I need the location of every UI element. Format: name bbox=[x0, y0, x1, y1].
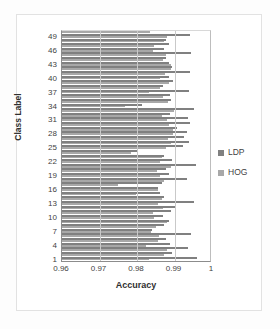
bar-group bbox=[62, 247, 210, 252]
bar-group bbox=[62, 196, 210, 201]
bar-hog bbox=[62, 221, 167, 223]
bar-hog bbox=[62, 119, 167, 121]
bar-ldp bbox=[62, 233, 191, 235]
y-tick-label: 31 bbox=[35, 116, 57, 124]
bar-hog bbox=[62, 50, 153, 52]
bar-rows bbox=[62, 31, 210, 261]
bar-hog bbox=[62, 217, 154, 219]
bar-ldp bbox=[62, 117, 188, 119]
bar-group bbox=[62, 113, 210, 118]
bar-hog bbox=[62, 235, 159, 237]
bar-ldp bbox=[62, 131, 187, 133]
bar-group bbox=[62, 66, 210, 71]
y-tick-label: 1 bbox=[35, 256, 57, 264]
bar-ldp bbox=[62, 104, 142, 106]
x-tick-label: 0.97 bbox=[91, 264, 107, 273]
bar-hog bbox=[62, 207, 163, 209]
bar-group bbox=[62, 43, 210, 48]
bar-group bbox=[62, 122, 210, 127]
y-axis-title: Class Label bbox=[13, 93, 23, 140]
bar-ldp bbox=[62, 238, 166, 240]
bar-group bbox=[62, 215, 210, 220]
x-axis-tick-labels: 0.960.970.980.991 bbox=[61, 264, 211, 278]
bar-group bbox=[62, 224, 210, 229]
bar-hog bbox=[62, 240, 158, 242]
bar-group bbox=[62, 117, 210, 122]
bar-ldp bbox=[62, 159, 172, 161]
bar-hog bbox=[62, 203, 158, 205]
bar-ldp bbox=[62, 206, 176, 208]
bar-ldp bbox=[62, 220, 169, 222]
bar-hog bbox=[62, 115, 162, 117]
bar-ldp bbox=[62, 145, 183, 147]
bar-ldp bbox=[62, 192, 160, 194]
x-tick-label: 0.99 bbox=[166, 264, 182, 273]
legend-label: LDP bbox=[228, 148, 245, 157]
bar-hog bbox=[62, 40, 164, 42]
bar-group bbox=[62, 131, 210, 136]
bar-group bbox=[62, 252, 210, 257]
bar-hog bbox=[62, 129, 173, 131]
bar-ldp bbox=[62, 62, 169, 64]
bar-hog bbox=[62, 68, 171, 70]
bar-ldp bbox=[62, 187, 158, 189]
y-tick-label: 34 bbox=[35, 103, 57, 111]
bar-group bbox=[62, 154, 210, 159]
bar-ldp bbox=[62, 71, 190, 73]
bar-hog bbox=[62, 87, 160, 89]
bar-hog bbox=[62, 249, 167, 251]
bar-group bbox=[62, 201, 210, 206]
bar-hog bbox=[62, 91, 149, 93]
bar-hog bbox=[62, 156, 162, 158]
bar-group bbox=[62, 85, 210, 90]
bar-group bbox=[62, 178, 210, 183]
bar-group bbox=[62, 71, 210, 76]
bar-ldp bbox=[62, 94, 170, 96]
bar-hog bbox=[62, 142, 171, 144]
y-axis-tick-labels: 1471013161922252831343740434649 bbox=[33, 30, 57, 262]
y-tick-label: 16 bbox=[35, 186, 57, 194]
bar-group bbox=[62, 136, 210, 141]
bar-group bbox=[62, 238, 210, 243]
bar-group bbox=[62, 159, 210, 164]
y-tick-label: 7 bbox=[35, 228, 57, 236]
bar-ldp bbox=[62, 99, 171, 101]
legend-item-ldp[interactable]: LDP bbox=[218, 148, 264, 157]
bar-hog bbox=[62, 96, 163, 98]
bar-ldp bbox=[62, 168, 166, 170]
y-tick-label: 10 bbox=[35, 214, 57, 222]
bar-group bbox=[62, 75, 210, 80]
bar-hog bbox=[62, 147, 166, 149]
bar-hog bbox=[62, 36, 167, 38]
bar-ldp bbox=[62, 57, 166, 59]
bar-ldp bbox=[62, 252, 172, 254]
bar-group bbox=[62, 256, 210, 261]
bar-hog bbox=[62, 184, 118, 186]
bar-hog bbox=[62, 77, 160, 79]
bar-hog bbox=[62, 73, 165, 75]
y-tick-label: 49 bbox=[35, 33, 57, 41]
legend-item-hog[interactable]: HOG bbox=[218, 168, 264, 177]
bar-hog bbox=[62, 64, 171, 66]
bar-group bbox=[62, 62, 210, 67]
bar-ldp bbox=[62, 52, 191, 54]
bar-hog bbox=[62, 198, 162, 200]
bar-hog bbox=[62, 152, 131, 154]
bar-group bbox=[62, 126, 210, 131]
bar-ldp bbox=[62, 34, 190, 36]
bar-hog bbox=[62, 189, 158, 191]
y-tick-label: 28 bbox=[35, 130, 57, 138]
bar-group bbox=[62, 80, 210, 85]
y-tick-label: 40 bbox=[35, 75, 57, 83]
bar-ldp bbox=[62, 247, 188, 249]
bar-hog bbox=[62, 82, 169, 84]
bar-hog bbox=[62, 245, 146, 247]
bar-hog bbox=[62, 170, 157, 172]
x-tick-label: 0.96 bbox=[53, 264, 69, 273]
bar-group bbox=[62, 48, 210, 53]
bar-group bbox=[62, 164, 210, 169]
bar-ldp bbox=[62, 66, 172, 68]
bar-ldp bbox=[62, 39, 166, 41]
bar-group bbox=[62, 94, 210, 99]
bar-group bbox=[62, 34, 210, 39]
